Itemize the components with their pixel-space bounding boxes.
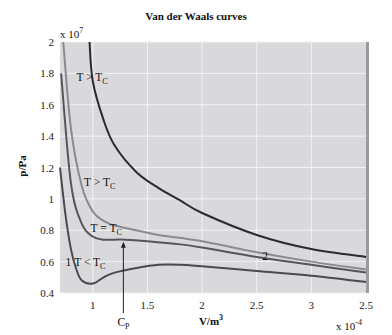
y-tick-label: 0.6 xyxy=(40,256,54,268)
y-tick-label: 1 xyxy=(49,193,55,205)
y-tick-label: 1.4 xyxy=(40,130,54,142)
x-tick-label: 1 xyxy=(90,299,96,311)
y-tick-label: 0.8 xyxy=(40,224,54,236)
curve-annotation: 2 xyxy=(262,250,268,262)
y-tick-label: 1.6 xyxy=(40,99,54,111)
curve-annotation: 1 xyxy=(65,256,71,268)
x-tick-label: 2.5 xyxy=(359,299,373,311)
x-tick-label: 2 xyxy=(199,299,205,311)
plot-area: 21.81.61.41.210.80.60.411.522.532.5T > T… xyxy=(0,0,392,335)
x-tick-label: 2.5 xyxy=(250,299,264,311)
critical-point-label: CP xyxy=(117,316,130,331)
y-tick-label: 0.4 xyxy=(40,287,54,299)
x-tick-label: 1.5 xyxy=(141,299,155,311)
y-tick-label: 1.2 xyxy=(40,162,54,174)
x-tick-label: 3 xyxy=(309,299,315,311)
y-tick-label: 2 xyxy=(49,36,55,48)
y-tick-label: 1.8 xyxy=(40,67,54,79)
